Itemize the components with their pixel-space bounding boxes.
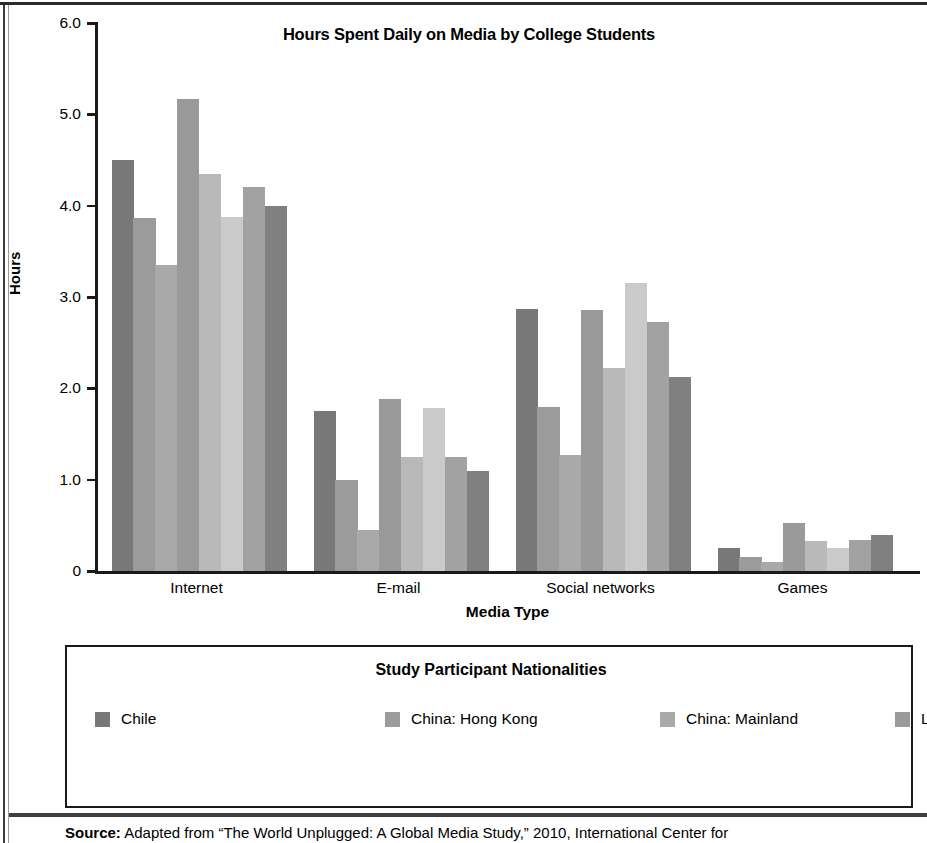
bar <box>423 408 445 571</box>
bar <box>761 562 783 571</box>
y-axis-label: Hours <box>6 252 23 295</box>
bar <box>849 540 871 571</box>
source-note: Source: Adapted from “The World Unplugge… <box>65 823 925 843</box>
y-axis-tick: 6.0 <box>95 23 96 24</box>
bar <box>243 187 265 571</box>
bar <box>177 99 199 571</box>
bar <box>669 377 691 571</box>
bar <box>379 399 401 571</box>
x-axis-line <box>95 571 920 574</box>
legend-swatch <box>895 712 910 727</box>
y-axis-tick-mark <box>87 479 98 482</box>
source-text: Adapted from “The World Unplugged: A Glo… <box>121 824 728 841</box>
legend-swatch <box>95 712 110 727</box>
y-axis-tick-label: 6.0 <box>59 14 81 32</box>
bar <box>625 283 647 571</box>
bar <box>335 480 357 571</box>
bar <box>199 174 221 571</box>
plot-area: 01.02.03.04.05.06.0 InternetE-mailSocial… <box>95 23 920 573</box>
figure-container: Hours Spent Daily on Media by College St… <box>9 5 927 843</box>
bar <box>783 523 805 571</box>
y-axis-tick-mark <box>87 570 98 573</box>
bar <box>647 322 669 571</box>
y-axis-tick-label: 1.0 <box>59 471 81 489</box>
bar-chart: Hours Spent Daily on Media by College St… <box>9 5 927 630</box>
x-axis-category-label: E-mail <box>281 579 516 597</box>
bar <box>516 309 538 571</box>
bar <box>603 368 625 571</box>
bar <box>581 310 603 571</box>
x-axis-category-label: Social networks <box>483 579 718 597</box>
bar <box>314 411 336 571</box>
x-axis-label: Media Type <box>95 603 920 621</box>
legend-title: Study Participant Nationalities <box>67 661 915 679</box>
y-axis-tick-label: 2.0 <box>59 379 81 397</box>
y-axis-tick: 0 <box>95 571 96 572</box>
bar <box>537 407 559 571</box>
bar <box>401 457 423 571</box>
legend-label: Chile <box>121 710 156 728</box>
x-axis-category-label: Games <box>685 579 920 597</box>
legend-label: Lebanon <box>921 710 927 728</box>
y-axis-tick: 4.0 <box>95 206 96 207</box>
bar-series-group <box>98 23 920 571</box>
source-label: Source: <box>65 824 121 841</box>
y-axis-tick-mark <box>87 205 98 208</box>
bar <box>871 535 893 571</box>
legend-item: Chile <box>95 710 385 728</box>
bar <box>112 160 134 571</box>
y-axis-tick-label: 5.0 <box>59 105 81 123</box>
bar <box>739 557 761 571</box>
legend-label: China: Hong Kong <box>411 710 538 728</box>
legend-swatch <box>385 712 400 727</box>
chart-legend: Study Participant Nationalities ChileChi… <box>65 645 913 808</box>
y-axis-tick-mark <box>87 296 98 299</box>
y-axis-tick-label: 0 <box>72 562 81 580</box>
bar <box>133 218 155 571</box>
legend-swatch <box>660 712 675 727</box>
legend-items: ChileChina: Hong KongChina: MainlandLeba… <box>95 702 895 736</box>
y-axis-tick: 1.0 <box>95 480 96 481</box>
legend-label: China: Mainland <box>686 710 798 728</box>
bottom-rule-divider <box>9 813 927 817</box>
bar <box>718 548 740 571</box>
legend-item: China: Mainland <box>660 710 895 728</box>
bar <box>827 548 849 571</box>
bar <box>155 265 177 571</box>
left-margin-rule <box>3 5 5 843</box>
y-axis-tick: 3.0 <box>95 297 96 298</box>
bar <box>445 457 467 571</box>
y-axis-tick-mark <box>87 113 98 116</box>
bar <box>265 206 287 571</box>
bar <box>559 455 581 571</box>
bar <box>805 541 827 571</box>
bar <box>221 217 243 571</box>
legend-item: Lebanon <box>895 710 927 728</box>
y-axis-tick-label: 4.0 <box>59 197 81 215</box>
bar <box>357 530 379 571</box>
y-axis-tick-mark <box>87 22 98 25</box>
bar <box>467 471 489 571</box>
y-axis-tick-mark <box>87 387 98 390</box>
y-axis-tick-label: 3.0 <box>59 288 81 306</box>
legend-item: China: Hong Kong <box>385 710 660 728</box>
x-axis-category-label: Internet <box>79 579 314 597</box>
y-axis-tick: 2.0 <box>95 388 96 389</box>
y-axis-tick: 5.0 <box>95 114 96 115</box>
